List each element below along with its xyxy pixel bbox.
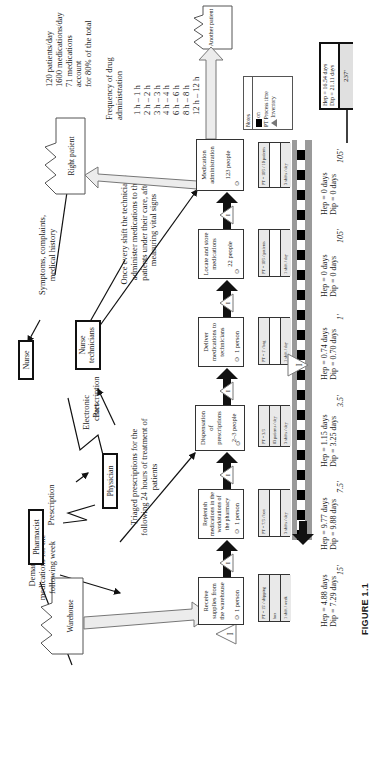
physician-role: Physician xyxy=(102,453,118,509)
legend-on-row: on xyxy=(255,79,263,127)
patient-stats: 120 patients/day 1600 medications/day 71… xyxy=(45,2,94,87)
warehouse-label: Warehouse xyxy=(67,577,76,655)
svg-text:I: I xyxy=(295,363,304,366)
data-box-receive: PT = 15' / shipping box 1 shift / week xyxy=(258,574,290,622)
lead-time-3: Hep = 1.15 days Dip = 3.25 days xyxy=(320,397,338,467)
process-people: 123 people xyxy=(224,142,232,188)
nurse-role: Nurse xyxy=(18,340,34,380)
process-name: Deliver medications to technicians xyxy=(202,320,225,364)
total-lead-time: Hep = 16.54 days Dip = 21.11 days xyxy=(321,44,340,108)
legend-inventory-row: Inventory xyxy=(270,79,278,127)
totals-box: Hep = 16.54 days Dip = 21.11 days 237' xyxy=(319,42,353,110)
data-box-replenish: PT = 7.5' / box 3 shifts / day xyxy=(258,489,290,537)
push-arrow-icon: I xyxy=(215,191,239,229)
operator-icon: ☺ xyxy=(234,440,242,447)
value-stream-map: Warehouse Demand of medications for the … xyxy=(0,0,375,775)
nurse-technicians-role: Nurse technicians xyxy=(75,320,101,370)
operator-icon: ☺ xyxy=(233,180,241,187)
process-receive-supplies: Receive supplies from the warehouse 1 pe… xyxy=(198,577,244,625)
legend-pt: PT Process time xyxy=(263,79,271,127)
data-box-medication-administration: PT = 105' / 10 patients 3 shifts / day xyxy=(258,142,290,188)
process-time-2: 7.5' xyxy=(336,481,345,493)
timeline-return-arrow-icon xyxy=(292,521,314,545)
right-patient-entity: Right patient xyxy=(44,117,86,195)
to-right-patient-arrow xyxy=(84,155,199,195)
another-patient-entity: Another patient xyxy=(193,5,233,50)
lead-time-4: Hep = 0.74 days Dip = 0.70 days xyxy=(320,310,338,380)
svg-text:I: I xyxy=(224,389,232,392)
process-name: Receive supplies from the warehouse xyxy=(202,580,225,622)
push-arrow-icon: I xyxy=(215,279,239,317)
timeline-checker-strip xyxy=(297,140,313,540)
process-name: Locate and store medications xyxy=(202,232,218,276)
svg-text:I: I xyxy=(224,301,232,304)
legend-box: Notes on PT Process time Inventory xyxy=(243,76,293,130)
symptoms-annotation: Symptoms, complaints, medical history xyxy=(38,200,58,310)
inventory-triangle-icon xyxy=(271,119,277,127)
right-patient-label: Right patient xyxy=(68,117,77,195)
process-replenish: Replenish medications in the workstation… xyxy=(198,489,244,539)
operator-icon: ☺ xyxy=(233,268,241,275)
svg-text:I: I xyxy=(224,473,232,476)
process-name: Medication administration xyxy=(200,142,216,188)
triaged-prescriptions-annotation: Triaged prescriptions for the following … xyxy=(130,397,159,557)
data-box-dispensation: PT = 3.5' 83 patients / day 3 shifts / d… xyxy=(258,405,290,447)
process-time-4: 1' xyxy=(336,314,345,320)
prescription-annotation-1: Prescription xyxy=(47,475,57,535)
operator-icon: ☺ xyxy=(233,356,241,363)
frequency-title: Frequency of drug administration xyxy=(105,35,125,120)
push-arrow-icon: I xyxy=(215,451,239,489)
process-medication-administration: Medication administration 123 people ☺ xyxy=(196,139,244,191)
process-time-6: 105' xyxy=(336,149,345,163)
timeline-inventory-icon: I xyxy=(285,353,311,377)
push-arrow-icon: I xyxy=(215,367,239,405)
process-name: Dispensation of prescriptions xyxy=(199,408,222,448)
process-deliver: Deliver medications to technicians 1 per… xyxy=(198,317,244,367)
process-time-1: 15' xyxy=(336,565,345,575)
process-time-5: 105' xyxy=(336,229,345,243)
figure-label: FIGURE 1.1 xyxy=(360,583,370,635)
to-another-patient-arrow xyxy=(196,45,226,140)
total-process-time: 237' xyxy=(340,44,353,108)
operator-icon: ☺ xyxy=(233,528,241,535)
process-dispensation: Dispensation of prescriptions 2–3 people… xyxy=(195,405,245,451)
process-name: Replenish medications in the workstation… xyxy=(202,492,231,536)
legend-title: Notes xyxy=(244,77,253,129)
another-patient-label: Another patient xyxy=(208,5,215,50)
pharmacist-role: Pharmacist xyxy=(28,509,44,565)
operator-icon: ☺ xyxy=(233,614,241,621)
push-arrow-icon: I xyxy=(215,539,239,577)
process-time-3: 3.5' xyxy=(336,395,345,407)
svg-text:I: I xyxy=(224,561,232,564)
inventory-triangle-icon: I xyxy=(215,623,237,645)
data-box-locate-store: PT = 105' / patients 1 shift / day xyxy=(258,229,290,277)
prescription-annotation-2: Prescription xyxy=(92,367,102,427)
svg-text:I: I xyxy=(226,632,235,635)
factory-icon xyxy=(44,117,86,195)
frequency-list: 1 h – 1 h 2 h – 2 h 3 h – 3 h 4 h – 4 h … xyxy=(133,45,201,115)
push-square-icon xyxy=(256,119,262,127)
svg-text:I: I xyxy=(224,213,232,216)
process-locate-store: Locate and store medications 22 people ☺ xyxy=(198,229,244,279)
shipment-arrow xyxy=(82,589,212,649)
